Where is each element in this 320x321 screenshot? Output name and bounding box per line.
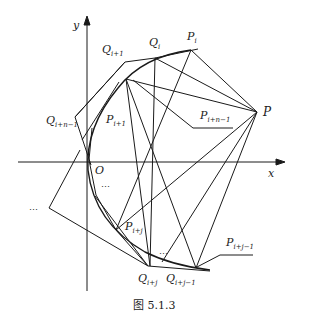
label-P-i: Pi: [187, 31, 197, 45]
secant-left-upper: [82, 82, 119, 140]
x-axis-arrow-icon: [276, 159, 285, 165]
label-Q-ij1: Qi+j−1: [166, 273, 196, 287]
label-P: P: [263, 106, 271, 118]
leader-P-ij1: [197, 255, 253, 267]
line-Pi1-Qij: [126, 79, 150, 266]
y-axis-arrow-icon: [84, 16, 90, 25]
line-P-Pi1: [126, 79, 257, 112]
y-axis-label: y: [73, 20, 79, 31]
ellipsis-center: …: [101, 180, 110, 189]
label-P-i1: Pi+1: [106, 114, 126, 128]
label-P-ij1: Pi+j−1: [226, 237, 254, 251]
line-P-Qi: [155, 58, 257, 112]
label-Q-in1: Qi+n−1: [46, 115, 78, 129]
label-Q-i: Qi: [149, 37, 160, 51]
label-P-in1: Pi+n−1: [200, 110, 230, 124]
figure-caption: 图 5.1.3: [133, 296, 176, 312]
ellipsis-left: …: [29, 203, 38, 212]
label-P-ij: Pi+j: [125, 221, 143, 235]
line-Pi1-Qij1: [126, 79, 196, 268]
label-Q-ij: Qi+j: [138, 273, 157, 287]
ellipsis-bottom: …: [159, 247, 168, 256]
x-axis-label: x: [268, 168, 274, 179]
line-P-Pi: [191, 50, 257, 112]
origin-label: O: [95, 165, 104, 176]
line-P-Pij: [116, 112, 257, 230]
label-Q-i1: Qi+1: [102, 44, 124, 58]
